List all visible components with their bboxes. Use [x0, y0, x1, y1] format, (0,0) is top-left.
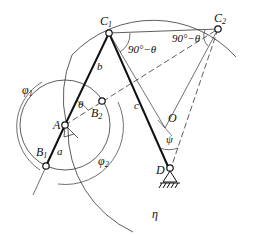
link-b: [65, 33, 109, 125]
label-phi2: φ2: [98, 154, 109, 169]
joint-b1: [43, 163, 49, 169]
joint-d: [167, 165, 173, 171]
label-o: O: [168, 111, 177, 125]
label-angle-c1: 90°−θ: [128, 43, 157, 55]
joint-a: [62, 122, 68, 128]
label-c2: C2: [214, 11, 226, 26]
label-c1: C1: [100, 14, 112, 29]
label-link-c: c: [134, 99, 139, 111]
joint-c2: [215, 26, 221, 32]
label-psi: ψ: [166, 133, 173, 145]
label-link-b: b: [97, 60, 103, 72]
label-b2: B2: [91, 106, 102, 121]
label-theta: θ: [78, 98, 84, 110]
label-d: D: [155, 163, 165, 177]
joint-c1: [106, 30, 112, 36]
mechanism-diagram: C1 C2 A B1 B2 D O a b c θ ψ 90°−θ 90°−θ …: [0, 0, 269, 235]
joint-b2: [99, 98, 105, 104]
label-a: A: [52, 118, 61, 132]
circle-eta-arc-lower: [68, 128, 133, 232]
label-b1: B1: [36, 145, 47, 160]
label-link-a: a: [57, 145, 63, 157]
label-angle-c2: 90°−θ: [172, 32, 201, 44]
psi-arc: [160, 148, 178, 150]
label-phi1: φ1: [22, 83, 33, 98]
line-c2-d: [170, 29, 218, 171]
label-eta: η: [152, 207, 158, 221]
